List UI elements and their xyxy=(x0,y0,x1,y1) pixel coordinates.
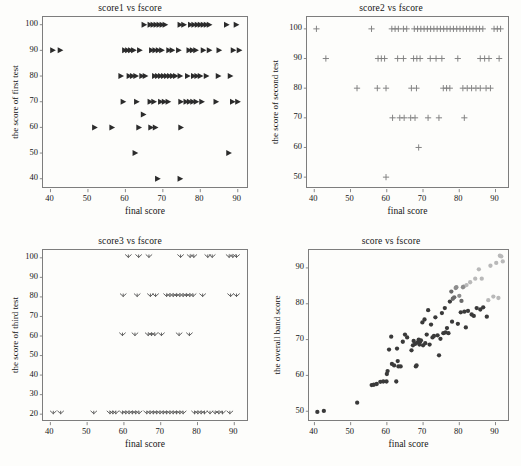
panel1-x-tick-label: 60 xyxy=(111,193,137,203)
panel3-x-axis-label: final score xyxy=(42,439,248,449)
data-point xyxy=(141,112,147,118)
data-point xyxy=(178,176,184,182)
panel1-plot-area[interactable] xyxy=(42,16,248,188)
data-point xyxy=(381,55,387,61)
panel4-y-tick-label: 50 xyxy=(278,405,304,415)
data-point xyxy=(414,363,418,367)
data-point xyxy=(433,55,439,61)
data-point xyxy=(374,85,380,91)
data-point xyxy=(58,47,64,53)
data-point xyxy=(201,47,207,53)
data-point xyxy=(146,254,152,257)
data-point xyxy=(163,22,169,28)
panel2-title: score2 vs fscore xyxy=(261,3,521,13)
data-point xyxy=(118,73,124,79)
panel3-y-tick-label: 100 xyxy=(12,251,38,261)
data-point xyxy=(466,309,470,313)
panel1-y-tick-label: 60 xyxy=(12,121,38,131)
data-point xyxy=(496,55,502,61)
data-point xyxy=(50,411,56,414)
panel3-y-tick-label: 70 xyxy=(12,310,38,320)
data-point xyxy=(447,85,453,91)
data-point xyxy=(472,314,476,318)
panel3-x-tick-label: 40 xyxy=(36,426,62,436)
panel-score2-vs-fscore: score2 vs fscore the score of second tes… xyxy=(261,0,521,233)
data-point xyxy=(464,283,468,287)
panel4-y-tick-label: 60 xyxy=(278,369,304,379)
panel3-x-tick-label: 60 xyxy=(110,426,136,436)
panel4-x-tick-label: 50 xyxy=(337,426,363,436)
panel1-y-tick-label: 40 xyxy=(12,172,38,182)
data-point xyxy=(207,22,213,28)
data-point xyxy=(186,333,192,336)
data-point xyxy=(135,254,141,257)
panel3-plot-area[interactable] xyxy=(42,249,248,421)
data-point xyxy=(499,254,503,258)
data-point xyxy=(425,332,429,336)
data-point xyxy=(354,85,360,91)
data-point xyxy=(487,85,493,91)
data-point xyxy=(417,55,423,61)
data-point xyxy=(389,335,393,339)
panel1-y-tick-label: 90 xyxy=(12,44,38,54)
data-point xyxy=(170,47,176,53)
data-point xyxy=(92,124,98,130)
data-point xyxy=(231,47,237,53)
panel2-y-tick-label: 90 xyxy=(276,52,302,62)
data-point xyxy=(461,115,467,121)
data-point xyxy=(133,73,139,79)
data-point xyxy=(383,85,389,91)
data-point xyxy=(433,315,437,319)
panel2-x-tick-label: 60 xyxy=(373,193,399,203)
data-point xyxy=(497,26,503,32)
data-point xyxy=(423,341,427,345)
data-point xyxy=(131,47,137,53)
data-point xyxy=(395,55,401,61)
panel4-plot-area[interactable] xyxy=(308,249,509,421)
panel3-y-tick-label: 90 xyxy=(12,271,38,281)
data-point xyxy=(227,411,233,414)
data-point xyxy=(224,22,230,28)
data-point xyxy=(464,325,468,329)
data-point xyxy=(375,382,379,386)
data-point xyxy=(234,22,240,28)
panel1-title: score1 vs fscore xyxy=(0,3,260,13)
data-point xyxy=(445,326,449,330)
data-point xyxy=(443,306,447,310)
data-point xyxy=(452,295,456,299)
data-point xyxy=(435,333,439,337)
panel2-plot-area[interactable] xyxy=(306,16,509,188)
panel4-title: score vs fscore xyxy=(261,236,521,246)
panel4-y-tick-label: 70 xyxy=(278,333,304,343)
panel3-y-tick-label: 50 xyxy=(12,349,38,359)
data-point xyxy=(468,280,472,284)
panel2-y-tick-label: 80 xyxy=(276,82,302,92)
panel4-x-tick-label: 40 xyxy=(300,426,326,436)
panel2-y-tick-label: 60 xyxy=(276,141,302,151)
data-point xyxy=(477,267,481,271)
data-point xyxy=(438,337,442,341)
data-point xyxy=(426,308,430,312)
data-point xyxy=(233,294,239,297)
panel2-x-tick-label: 40 xyxy=(300,193,326,203)
data-point xyxy=(400,55,406,61)
panel1-x-tick-label: 50 xyxy=(74,193,100,203)
data-point xyxy=(153,124,159,130)
data-point xyxy=(404,26,410,32)
panel1-y-tick-label: 50 xyxy=(12,147,38,157)
data-point xyxy=(143,73,149,79)
data-point xyxy=(501,259,505,263)
panel3-x-tick-label: 90 xyxy=(220,426,246,436)
data-point xyxy=(494,261,498,265)
data-point xyxy=(136,124,142,130)
data-point xyxy=(125,254,131,257)
panel1-y-tick-label: 80 xyxy=(12,70,38,80)
panel2-x-tick-label: 90 xyxy=(482,193,508,203)
data-point xyxy=(207,47,213,53)
data-point xyxy=(199,99,205,105)
data-point xyxy=(132,333,138,336)
data-point xyxy=(462,309,466,313)
figure-canvas: score1 vs fscore the score of first test… xyxy=(0,0,521,466)
data-point xyxy=(432,334,436,338)
data-point xyxy=(194,99,200,105)
